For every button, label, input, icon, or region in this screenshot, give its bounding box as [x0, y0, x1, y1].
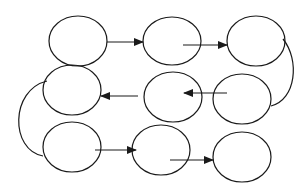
node-ellipse-n5 — [144, 72, 202, 122]
nodes — [43, 16, 285, 182]
node-ellipse-n4 — [43, 65, 101, 115]
curve-connector-n3-to-n6 — [271, 39, 293, 106]
node-ellipse-n7 — [43, 122, 101, 172]
node-ellipse-n2 — [143, 17, 201, 65]
node-ellipse-n8 — [132, 125, 190, 175]
node-ellipse-n3 — [227, 16, 285, 66]
diagram-canvas — [0, 0, 308, 186]
curved-connectors — [19, 39, 294, 156]
node-ellipse-n9 — [213, 132, 271, 182]
node-ellipse-n1 — [49, 16, 107, 66]
flow-diagram — [0, 0, 308, 186]
node-ellipse-n6 — [213, 74, 271, 124]
arrows — [95, 42, 227, 160]
